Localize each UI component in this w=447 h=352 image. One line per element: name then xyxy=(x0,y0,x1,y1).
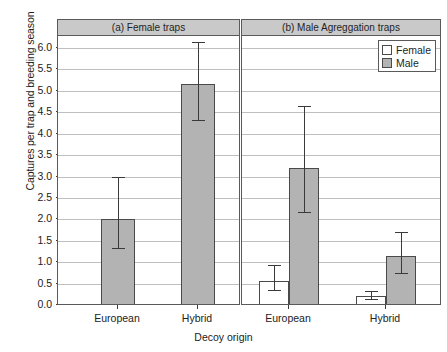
panel-a-female-traps: (a) Female traps xyxy=(57,19,240,305)
x-axis-tick-mark xyxy=(288,305,289,309)
legend-item-male: Male xyxy=(382,56,431,69)
legend-swatch-male-icon xyxy=(382,58,392,68)
x-axis-tick-label: European xyxy=(72,312,162,324)
error-bar-cap-lower xyxy=(268,290,281,291)
y-axis-tick-label: 2.0 xyxy=(22,212,52,224)
gridline xyxy=(242,91,440,92)
x-axis-tick-mark xyxy=(197,305,198,309)
error-bar-cap-lower xyxy=(192,120,205,121)
error-bar-whisker xyxy=(371,291,372,299)
gridline xyxy=(242,112,440,113)
gridline xyxy=(242,198,440,199)
y-axis-tick-label: 4.5 xyxy=(22,105,52,117)
x-axis-tick-mark xyxy=(385,305,386,309)
error-bar-cap-upper xyxy=(365,291,378,292)
error-bar-cap-lower xyxy=(365,299,378,300)
x-axis-tick-label: Hybrid xyxy=(152,312,242,324)
error-bar-cap-lower xyxy=(298,212,311,213)
error-bar-cap-lower xyxy=(112,248,125,249)
y-axis-tick-label: 4.0 xyxy=(22,127,52,139)
gridline xyxy=(242,134,440,135)
y-axis-tick-label: 5.0 xyxy=(22,84,52,96)
y-axis-tick-label: 3.0 xyxy=(22,170,52,182)
error-bar-cap-upper xyxy=(395,232,408,233)
x-axis-tick-mark xyxy=(117,305,118,309)
error-bar-cap-upper xyxy=(192,42,205,43)
x-axis-tick-label: European xyxy=(243,312,333,324)
error-bar-cap-lower xyxy=(395,273,408,274)
y-axis-tick-label: 0.5 xyxy=(22,277,52,289)
gridline xyxy=(242,177,440,178)
panel-a-title: (a) Female traps xyxy=(58,20,239,36)
y-axis-tick-label: 0.0 xyxy=(22,298,52,310)
panel-a-plot-area xyxy=(58,36,239,304)
legend: Female Male xyxy=(378,40,436,72)
panel-b-plot-area xyxy=(242,36,440,304)
y-axis-tick-label: 3.5 xyxy=(22,148,52,160)
y-axis-tick-label: 1.5 xyxy=(22,234,52,246)
panel-b-male-aggregation-traps: (b) Male Agreggation traps Female Male xyxy=(241,19,441,305)
error-bar-whisker xyxy=(118,177,119,249)
error-bar-cap-upper xyxy=(268,265,281,266)
y-axis-tick-label: 6.0 xyxy=(22,41,52,53)
gridline xyxy=(58,48,239,49)
x-axis-tick-label: Hybrid xyxy=(340,312,430,324)
error-bar-whisker xyxy=(401,232,402,273)
error-bar-cap-upper xyxy=(298,106,311,107)
legend-item-female: Female xyxy=(382,43,431,56)
legend-label-male: Male xyxy=(396,57,419,69)
gridline xyxy=(242,219,440,220)
gridline xyxy=(58,69,239,70)
error-bar-whisker xyxy=(198,42,199,121)
figure-chart-captures-per-trap: Captures per trap and breeding season 0.… xyxy=(0,0,447,352)
error-bar-whisker xyxy=(274,265,275,291)
gridline xyxy=(242,241,440,242)
error-bar-cap-upper xyxy=(112,177,125,178)
y-axis-tick-label: 2.5 xyxy=(22,191,52,203)
x-axis-title: Decoy origin xyxy=(0,331,447,343)
legend-swatch-female-icon xyxy=(382,45,392,55)
legend-label-female: Female xyxy=(396,44,431,56)
y-axis-tick-label: 5.5 xyxy=(22,62,52,74)
gridline xyxy=(242,155,440,156)
panel-b-title: (b) Male Agreggation traps xyxy=(242,20,440,36)
y-axis-tick-label: 1.0 xyxy=(22,255,52,267)
error-bar-whisker xyxy=(304,106,305,211)
